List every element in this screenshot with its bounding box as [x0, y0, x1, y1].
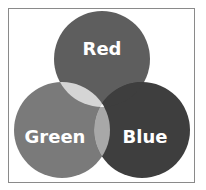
label-red: Red: [83, 38, 122, 59]
label-green: Green: [25, 126, 86, 147]
venn-diagram: Red Green Blue: [0, 0, 206, 190]
label-blue: Blue: [123, 126, 168, 147]
